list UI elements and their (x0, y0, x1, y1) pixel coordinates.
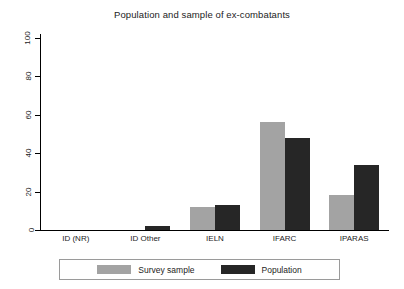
y-axis-tick-label: 20 (0, 185, 34, 199)
bar-population (354, 165, 379, 230)
bar-population (145, 226, 170, 230)
bar-population (285, 138, 310, 230)
y-axis-tick-label: 80 (0, 69, 34, 83)
y-axis-tick-label: 0 (0, 223, 34, 237)
legend-swatch-population (221, 265, 255, 274)
legend-label-population: Population (262, 265, 302, 275)
x-axis-label: ID (NR) (36, 234, 116, 243)
legend-swatch-survey-sample (97, 265, 131, 274)
y-axis-tick-label: 40 (0, 146, 34, 160)
x-axis-label: IPARAS (314, 234, 394, 243)
legend-entry-population: Population (221, 265, 302, 275)
y-axis-tick-label: 100 (0, 31, 34, 45)
legend-entry-survey-sample: Survey sample (97, 265, 194, 275)
bar-survey-sample (260, 122, 285, 230)
x-axis-label: IFARC (245, 234, 325, 243)
plot-area (41, 38, 389, 230)
chart-title: Population and sample of ex-combatants (0, 9, 404, 20)
x-axis-label: ID Other (105, 234, 185, 243)
bar-chart: Population and sample of ex-combatants 0… (0, 0, 404, 289)
y-axis-tick-label: 60 (0, 108, 34, 122)
bar-survey-sample (329, 195, 354, 230)
x-axis-label: IELN (175, 234, 255, 243)
chart-legend: Survey sample Population (59, 259, 340, 280)
bar-population (215, 205, 240, 230)
bar-survey-sample (190, 207, 215, 230)
legend-label-survey-sample: Survey sample (138, 265, 194, 275)
x-axis-line (41, 230, 389, 231)
